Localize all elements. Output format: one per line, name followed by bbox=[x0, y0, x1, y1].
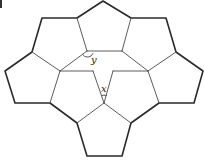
angle-label-y: y bbox=[90, 54, 97, 65]
outer-boundary bbox=[5, 1, 203, 156]
pentagon-tessellation-diagram: y x bbox=[0, 0, 204, 162]
angle-label-x: x bbox=[101, 83, 107, 94]
